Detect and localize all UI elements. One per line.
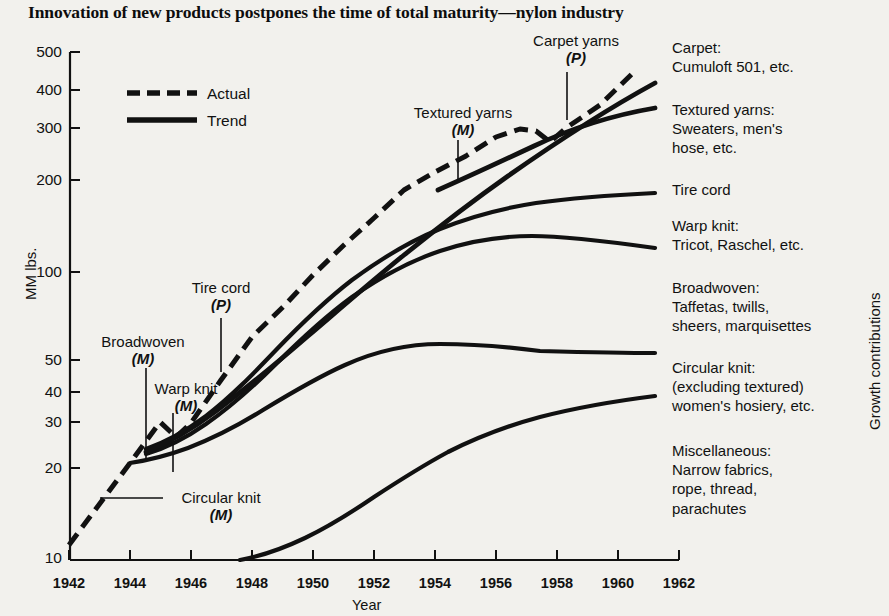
x-axis-ticks xyxy=(69,550,679,560)
series-warp-knit-trend xyxy=(146,236,655,454)
series-circular-knit-trend-visible xyxy=(130,344,655,463)
chart-page: Innovation of new products postpones the… xyxy=(0,0,889,616)
chart-svg xyxy=(0,0,889,616)
y-axis-ticks xyxy=(70,52,80,468)
series-miscellaneous-trend xyxy=(240,396,655,560)
series-total-actual xyxy=(69,72,634,545)
axis-lines xyxy=(70,52,679,560)
series-lower-trend-curve xyxy=(130,350,442,463)
